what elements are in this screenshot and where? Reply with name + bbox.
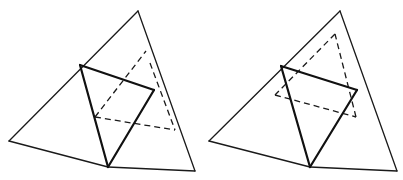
right-diagram [209, 11, 397, 171]
outer-edge [340, 11, 397, 171]
dashed-fold-line [275, 95, 356, 117]
outer-edge [9, 141, 108, 167]
outer-edge [108, 167, 195, 171]
bold-inner-edge [281, 66, 310, 167]
bold-inner-edge [310, 90, 357, 167]
dashed-fold-line [150, 63, 175, 130]
dashed-fold-line [275, 34, 335, 95]
tetrahedron-net-figure [0, 0, 403, 180]
left-diagram [9, 11, 195, 171]
bold-inner-edge [80, 65, 154, 90]
outer-edge [138, 11, 195, 171]
bold-inner-edge [108, 90, 154, 167]
outer-edge [209, 11, 340, 141]
bold-inner-edge [80, 65, 108, 167]
outer-edge [310, 167, 397, 171]
outer-edge [209, 141, 310, 167]
